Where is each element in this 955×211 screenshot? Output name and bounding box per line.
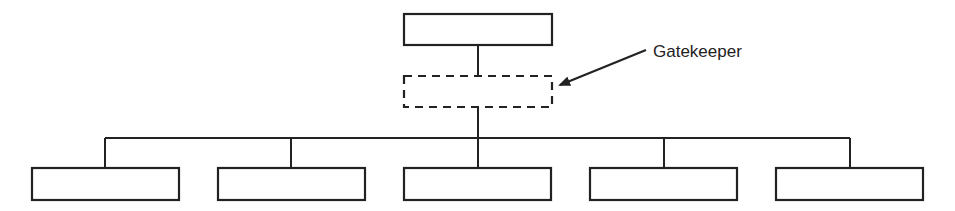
subordinate-node-box-5 bbox=[776, 168, 923, 200]
subordinate-node-box-1 bbox=[32, 168, 179, 200]
gatekeeper-label: Gatekeeper bbox=[653, 42, 742, 61]
gatekeeper-arrow-icon bbox=[560, 50, 646, 85]
top-node-box bbox=[404, 14, 552, 45]
subordinate-node-box-3 bbox=[404, 168, 551, 200]
subordinate-node-box-2 bbox=[218, 168, 365, 200]
gatekeeper-node-box bbox=[404, 76, 552, 107]
subordinate-node-box-4 bbox=[590, 168, 737, 200]
org-chart: Gatekeeper bbox=[0, 0, 955, 211]
